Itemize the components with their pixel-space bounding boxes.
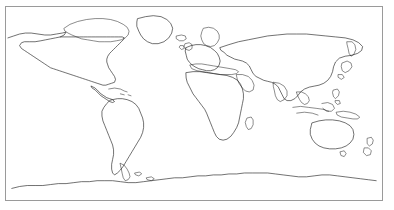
region-new-guinea: [336, 111, 359, 119]
region-philippines: [333, 89, 341, 104]
region-madagascar: [245, 117, 253, 130]
region-iceland: [177, 35, 187, 41]
region-mediterranean: [190, 64, 238, 75]
page-title: World Map Outline: [0, 21, 1, 22]
region-antarctica: [12, 173, 376, 188]
region-japan: [338, 61, 352, 79]
region-scandinavia: [201, 27, 219, 46]
region-tasmania: [340, 151, 346, 157]
region-north-america: [8, 32, 124, 85]
region-southeast-asia: [297, 92, 310, 105]
region-south-georgia: [135, 172, 154, 181]
region-africa: [186, 72, 243, 141]
region-kamchatka: [347, 42, 356, 56]
region-india: [273, 82, 287, 101]
region-arabia: [237, 75, 254, 92]
region-new-zealand: [364, 137, 374, 155]
region-south-america: [102, 99, 144, 175]
region-australia: [310, 120, 354, 149]
coastline-layer: [8, 16, 376, 189]
region-europe: [185, 45, 220, 71]
region-indonesia: [293, 103, 335, 116]
region-canada-arctic: [64, 19, 129, 42]
map-frame-border: [5, 6, 383, 201]
region-greenland: [137, 16, 173, 44]
region-caribbean: [109, 88, 131, 96]
world-map-figure: World Map Outline: [0, 0, 394, 210]
region-antarctic-peninsula: [120, 163, 130, 180]
world-map-canvas: [6, 7, 382, 200]
